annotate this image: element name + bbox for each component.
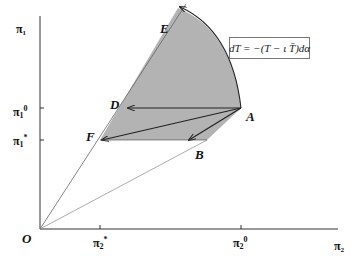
- y-tick-label-pi1-star: π1*: [13, 134, 28, 149]
- equation-text: dT = −(T − ι T̄)dα: [229, 42, 310, 54]
- shallow-ray: [40, 140, 207, 229]
- x-tick-label-pi2-star: π2*: [93, 236, 108, 251]
- point-label-B: B: [195, 148, 204, 161]
- point-label-A: A: [246, 110, 255, 123]
- point-label-E: E: [160, 22, 169, 35]
- equation-box: dT = −(T − ι T̄)dα: [229, 37, 310, 59]
- x-axis-label: π₂: [334, 240, 344, 252]
- y-axis-label: π₁: [16, 23, 26, 35]
- point-label-F: F: [86, 130, 95, 143]
- point-label-D: D: [110, 98, 119, 111]
- x-tick-label-pi2-0: π20: [233, 236, 248, 251]
- origin-label: O: [22, 232, 31, 245]
- y-tick-label-pi1-0: π10: [13, 105, 28, 120]
